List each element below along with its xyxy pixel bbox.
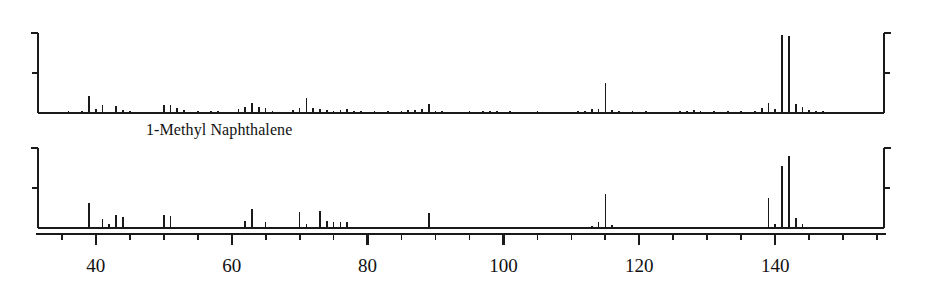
x-axis-tick-label: 120 [625, 255, 654, 276]
spectrum-plot: 406080100120140 [0, 0, 929, 292]
panel-library-reference [31, 148, 891, 228]
x-axis-tick-marks [36, 234, 886, 245]
x-axis-tick-label: 80 [358, 255, 377, 276]
x-axis-tick-label: 100 [489, 255, 518, 276]
compound-name-label: 1-Methyl Naphthalene [146, 121, 292, 139]
x-axis-tick-label: 40 [86, 255, 105, 276]
x-axis-tick-labels: 406080100120140 [86, 255, 789, 276]
x-axis-tick-label: 60 [222, 255, 241, 276]
panel-experimental-scan [31, 33, 891, 113]
mass-spectrum-figure: 406080100120140 1-Methyl Naphthalene [0, 0, 929, 292]
x-axis-tick-label: 140 [761, 255, 790, 276]
